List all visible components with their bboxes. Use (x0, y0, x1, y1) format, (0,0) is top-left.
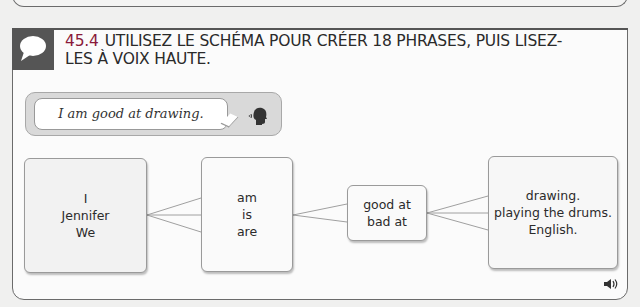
skill-option: bad at (363, 213, 411, 230)
speech-bubble-icon (12, 28, 54, 70)
object-option: drawing. (494, 187, 612, 204)
example-sentence: I am good at drawing. (34, 98, 228, 130)
example-panel: I am good at drawing. (25, 92, 282, 136)
speaking-head-icon (248, 105, 270, 127)
exercise-number: 45.4 (65, 32, 99, 50)
exercise-title: 45.4UTILISEZ LE SCHÉMA POUR CRÉER 18 PHR… (65, 32, 585, 68)
header-rule (12, 28, 628, 30)
previous-exercise-panel (12, 0, 628, 7)
verb-option: are (237, 223, 257, 240)
subjects-box: I Jennifer We (24, 158, 147, 273)
verbs-box: am is are (201, 157, 293, 272)
verb-option: am (237, 189, 257, 206)
skill-option: good at (363, 196, 411, 213)
subject-option: I (62, 190, 110, 207)
exercise-instruction: UTILISEZ LE SCHÉMA POUR CRÉER 18 PHRASES… (65, 32, 562, 68)
subject-option: Jennifer (62, 207, 110, 224)
object-option: English. (494, 221, 612, 238)
speaker-icon[interactable] (603, 277, 619, 291)
verb-option: is (237, 206, 257, 223)
object-option: playing the drums. (494, 204, 612, 221)
skill-box: good at bad at (347, 185, 427, 241)
objects-box: drawing. playing the drums. English. (488, 156, 618, 269)
exercise-card: 45.4UTILISEZ LE SCHÉMA POUR CRÉER 18 PHR… (12, 28, 628, 300)
subject-option: We (62, 224, 110, 241)
